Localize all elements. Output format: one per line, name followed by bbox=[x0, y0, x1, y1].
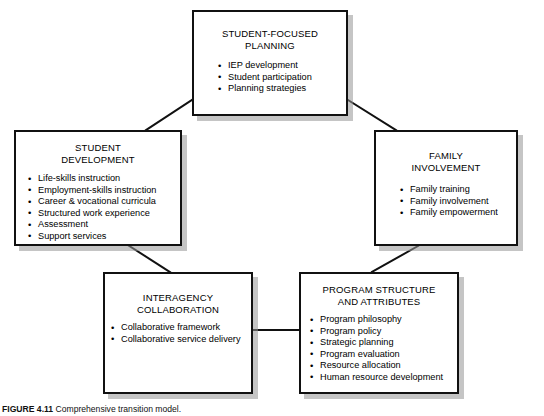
figure-caption-text: Comprehensive transition model. bbox=[56, 404, 182, 414]
list-item: Family involvement bbox=[398, 196, 516, 208]
box-student-focused-planning: STUDENT-FOCUSED PLANNING IEP development… bbox=[192, 10, 348, 116]
connector-planning-family-involvement bbox=[348, 100, 396, 130]
bullet-list-student-focused-planning: IEP development Student participation Pl… bbox=[216, 60, 346, 95]
list-item: Family training bbox=[398, 184, 516, 196]
bullet-list-program-structure: Program philosophy Program policy Strate… bbox=[308, 314, 457, 384]
list-item: Program evaluation bbox=[308, 349, 457, 361]
list-item: Support services bbox=[26, 231, 180, 243]
connector-planning-student-development bbox=[146, 100, 192, 130]
bullet-list-interagency-collaboration: Collaborative framework Collaborative se… bbox=[109, 322, 251, 345]
list-item: Human resource development bbox=[308, 372, 457, 384]
list-item: IEP development bbox=[216, 60, 346, 72]
box-student-development: STUDENT DEVELOPMENT Life-skills instruct… bbox=[14, 130, 182, 246]
list-item: Family empowerment bbox=[398, 207, 516, 219]
list-item: Strategic planning bbox=[308, 337, 457, 349]
figure-label: FIGURE 4.11 bbox=[2, 404, 53, 414]
list-item: Planning strategies bbox=[216, 83, 346, 95]
figure-caption: FIGURE 4.11 Comprehensive transition mod… bbox=[2, 404, 181, 415]
list-item: Assessment bbox=[26, 219, 180, 231]
box-title-program-structure-and-attributes: PROGRAM STRUCTURE AND ATTRIBUTES bbox=[301, 284, 457, 307]
list-item: Program philosophy bbox=[308, 314, 457, 326]
box-interagency-collaboration: INTERAGENCY COLLABORATION Collaborative … bbox=[103, 272, 253, 394]
list-item: Structured work experience bbox=[26, 208, 180, 220]
box-program-structure-and-attributes: PROGRAM STRUCTURE AND ATTRIBUTES Program… bbox=[299, 272, 459, 394]
box-family-involvement: FAMILY INVOLVEMENT Family training Famil… bbox=[374, 130, 518, 246]
list-item: Career & vocational curricula bbox=[26, 196, 180, 208]
list-item: Program policy bbox=[308, 326, 457, 338]
list-item: Employment-skills instruction bbox=[26, 185, 180, 197]
box-title-student-development: STUDENT DEVELOPMENT bbox=[16, 142, 180, 165]
list-item: Life-skills instruction bbox=[26, 173, 180, 185]
list-item: Collaborative framework bbox=[109, 322, 251, 334]
box-title-student-focused-planning: STUDENT-FOCUSED PLANNING bbox=[194, 28, 346, 51]
list-item: Student participation bbox=[216, 72, 346, 84]
box-title-interagency-collaboration: INTERAGENCY COLLABORATION bbox=[105, 292, 251, 315]
transition-model-diagram: STUDENT-FOCUSED PLANNING IEP development… bbox=[0, 0, 544, 416]
bullet-list-family-involvement: Family training Family involvement Famil… bbox=[398, 184, 516, 219]
connector-family-involvement-program bbox=[372, 246, 418, 272]
box-title-family-involvement: FAMILY INVOLVEMENT bbox=[376, 150, 516, 173]
list-item: Collaborative service delivery bbox=[109, 334, 251, 346]
list-item: Resource allocation bbox=[308, 360, 457, 372]
bullet-list-student-development: Life-skills instruction Employment-skill… bbox=[26, 173, 180, 243]
